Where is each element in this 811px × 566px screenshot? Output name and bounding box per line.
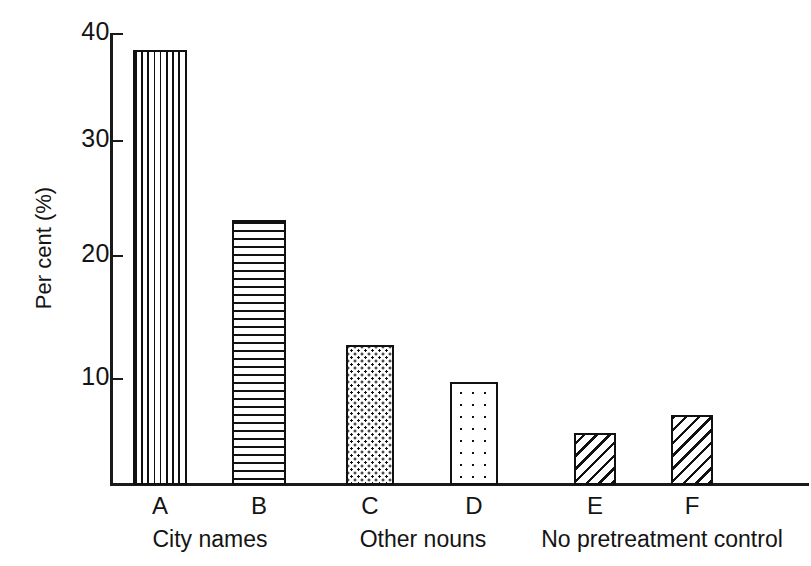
group-label-no-pretreatment-control: No pretreatment control [517,526,807,553]
y-tick-mark-30 [110,140,123,142]
bar-c [346,345,394,485]
x-tick-label-e: E [565,492,625,520]
bar-f [671,415,713,485]
y-tick-mark-10 [110,378,123,380]
group-label-city-names: City names [120,526,300,553]
bar-a [133,50,187,485]
bar-b [232,220,286,485]
x-tick-label-c: C [340,492,400,520]
x-tick-label-a: A [130,492,190,520]
y-tick-label-40: 40 [52,17,110,46]
y-tick-mark-20 [110,255,123,257]
y-axis-line [110,33,113,485]
bar-d [450,382,498,485]
bar-e [574,433,616,485]
bar-chart-figure: 40 30 20 10 Per cent (%) A B C D E F Cit… [0,0,811,566]
y-tick-label-30: 30 [52,124,110,153]
y-tick-mark-40 [110,33,123,35]
y-tick-label-10: 10 [52,362,110,391]
x-tick-label-f: F [662,492,722,520]
group-label-other-nouns: Other nouns [333,526,513,553]
y-tick-label-20: 20 [52,239,110,268]
x-tick-label-b: B [229,492,289,520]
x-tick-label-d: D [444,492,504,520]
y-axis-title: Per cent (%) [31,148,57,348]
